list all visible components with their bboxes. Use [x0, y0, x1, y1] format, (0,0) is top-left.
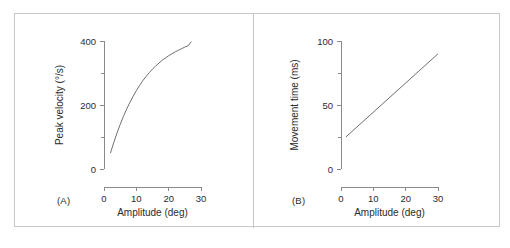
y-axis-title: Movement time (ms) [289, 59, 300, 150]
data-series-line [110, 42, 191, 153]
x-tick-label: 0 [338, 193, 343, 204]
chart-panel-b: 0501000102030Amplitude (deg)Movement tim… [254, 14, 501, 228]
x-axis-title: Amplitude (deg) [117, 207, 188, 218]
panel-a-label: (A) [57, 195, 70, 206]
x-tick-label: 10 [131, 193, 142, 204]
y-tick-label: 100 [317, 36, 333, 47]
x-tick-label: 20 [400, 193, 411, 204]
peak-velocity-chart: 02004000102030Amplitude (deg)Peak veloci… [15, 14, 253, 228]
y-tick-label: 50 [322, 100, 333, 111]
figure-frame: 02004000102030Amplitude (deg)Peak veloci… [14, 13, 500, 227]
y-tick-label: 0 [328, 164, 333, 175]
y-tick-label: 400 [80, 36, 96, 47]
x-tick-label: 30 [433, 193, 444, 204]
x-tick-label: 20 [163, 193, 174, 204]
x-tick-label: 0 [101, 193, 106, 204]
panel-b-label: (B) [292, 195, 305, 206]
x-tick-label: 10 [368, 193, 379, 204]
x-axis-title: Amplitude (deg) [354, 207, 425, 218]
x-tick-label: 30 [196, 193, 207, 204]
data-series-line [346, 54, 438, 137]
y-tick-label: 200 [80, 100, 96, 111]
y-tick-label: 0 [91, 164, 96, 175]
chart-panel-a: 02004000102030Amplitude (deg)Peak veloci… [15, 14, 253, 228]
y-axis-title: Peak velocity (°/s) [54, 65, 65, 145]
